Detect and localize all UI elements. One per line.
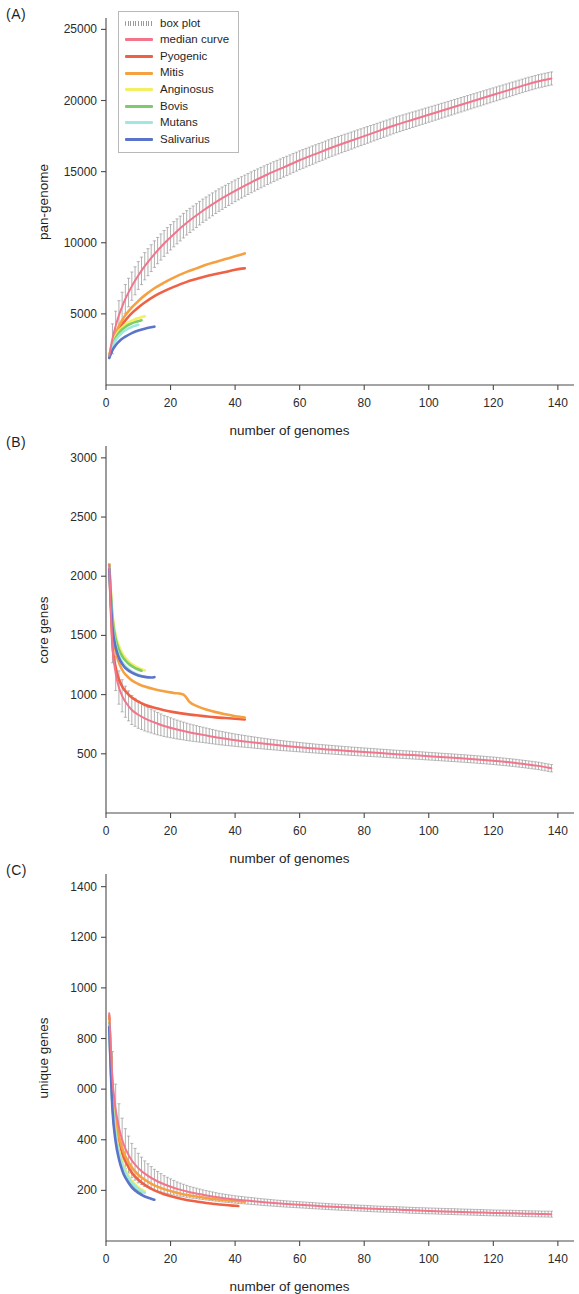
y-tick-label: 15000 xyxy=(64,165,98,179)
series-line-median-curve xyxy=(109,1013,551,1214)
y-tick-label: 000 xyxy=(77,1082,97,1096)
y-tick-label: 2500 xyxy=(70,510,97,524)
y-tick-label: 1000 xyxy=(70,981,97,995)
series-line-pyogenic xyxy=(109,564,245,719)
y-tick-label: 10000 xyxy=(64,236,98,250)
x-tick-label: 20 xyxy=(164,824,178,838)
y-tick-label: 500 xyxy=(77,747,97,761)
x-tick-label: 120 xyxy=(483,396,503,410)
panel-c: (C) unique genes 20040000080010001200140… xyxy=(0,856,579,1284)
x-tick-label: 40 xyxy=(228,396,242,410)
legend-item-label: Mitis xyxy=(160,67,184,79)
x-tick-label: 120 xyxy=(483,1252,503,1266)
chart-legend: box plotmedian curvePyogenicMitisAnginos… xyxy=(118,11,239,153)
series-line-mitis xyxy=(109,1016,245,1202)
panel-a-plot: 5000100001500020000250000204060801001201… xyxy=(0,0,579,428)
x-tick-label: 140 xyxy=(548,824,568,838)
legend-swatch-icon xyxy=(125,21,153,26)
y-tick-label: 1000 xyxy=(70,688,97,702)
x-tick-label: 20 xyxy=(164,396,178,410)
x-tick-label: 140 xyxy=(548,396,568,410)
legend-item-median-curve: median curve xyxy=(123,32,234,49)
x-tick-label: 0 xyxy=(103,824,110,838)
legend-swatch-icon xyxy=(125,55,153,58)
y-tick-label: 20000 xyxy=(64,94,98,108)
legend-swatch-icon xyxy=(125,138,153,141)
panel-c-x-axis-label: number of genomes xyxy=(0,1279,579,1294)
legend-item-mitis: Mitis xyxy=(123,65,234,82)
y-tick-label: 1500 xyxy=(70,628,97,642)
y-tick-label: 2000 xyxy=(70,569,97,583)
x-tick-label: 40 xyxy=(228,1252,242,1266)
panel-a: (A) pan-genome 5000100001500020000250000… xyxy=(0,0,579,428)
y-tick-label: 400 xyxy=(77,1133,97,1147)
x-tick-label: 60 xyxy=(293,824,307,838)
y-tick-label: 200 xyxy=(77,1183,97,1197)
x-tick-label: 40 xyxy=(228,824,242,838)
legend-swatch-icon xyxy=(125,72,153,75)
legend-item-label: median curve xyxy=(160,34,229,46)
panel-b: (B) core genes 5001000150020002500300002… xyxy=(0,428,579,856)
panel-c-plot: 2004000008001000120014000204060801001201… xyxy=(0,856,579,1284)
series-line-pyogenic xyxy=(109,268,245,356)
y-tick-label: 1200 xyxy=(70,930,97,944)
legend-item-label: box plot xyxy=(160,18,200,30)
x-tick-label: 140 xyxy=(548,1252,568,1266)
x-tick-label: 0 xyxy=(103,1252,110,1266)
legend-item-box-plot: box plot xyxy=(123,15,234,32)
legend-item-label: Anginosus xyxy=(160,84,214,96)
legend-item-bovis: Bovis xyxy=(123,98,234,115)
x-tick-label: 100 xyxy=(419,824,439,838)
legend-item-label: Mutans xyxy=(160,117,198,129)
y-tick-label: 25000 xyxy=(64,22,98,36)
x-tick-label: 120 xyxy=(483,824,503,838)
x-tick-label: 100 xyxy=(419,396,439,410)
legend-item-label: Salivarius xyxy=(160,134,210,146)
panel-b-plot: 5001000150020002500300002040608010012014… xyxy=(0,428,579,856)
y-tick-label: 3000 xyxy=(70,451,97,465)
legend-swatch-icon xyxy=(125,105,153,108)
x-tick-label: 80 xyxy=(358,824,372,838)
y-tick-label: 5000 xyxy=(70,307,97,321)
x-tick-label: 60 xyxy=(293,396,307,410)
x-tick-label: 100 xyxy=(419,1252,439,1266)
x-tick-label: 80 xyxy=(358,396,372,410)
y-tick-label: 1400 xyxy=(70,880,97,894)
legend-swatch-icon xyxy=(125,88,153,91)
x-tick-label: 80 xyxy=(358,1252,372,1266)
series-line-mitis xyxy=(109,253,245,355)
series-line-median-curve xyxy=(109,564,551,768)
legend-item-pyogenic: Pyogenic xyxy=(123,48,234,65)
legend-item-label: Pyogenic xyxy=(160,51,207,63)
x-tick-label: 0 xyxy=(103,396,110,410)
y-tick-label: 800 xyxy=(77,1032,97,1046)
x-tick-label: 60 xyxy=(293,1252,307,1266)
x-tick-label: 20 xyxy=(164,1252,178,1266)
legend-item-anginosus: Anginosus xyxy=(123,81,234,98)
legend-swatch-icon xyxy=(125,121,153,124)
legend-item-label: Bovis xyxy=(160,101,188,113)
legend-item-mutans: Mutans xyxy=(123,115,234,132)
legend-swatch-icon xyxy=(125,38,153,41)
legend-item-salivarius: Salivarius xyxy=(123,131,234,148)
